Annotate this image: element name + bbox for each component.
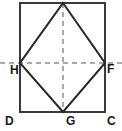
vertex-label-c: C [107, 115, 116, 127]
vertex-label-g: G [66, 115, 75, 127]
vertex-label-f: F [107, 63, 114, 75]
vertex-label-h: H [10, 64, 19, 76]
vertex-label-d: D [5, 115, 14, 127]
geometry-figure: H F D G C [0, 0, 122, 131]
